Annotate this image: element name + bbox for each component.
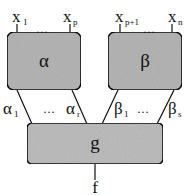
edge-dots-alpha: … <box>43 102 55 116</box>
beta-input-label-last: x <box>168 7 177 26</box>
edge-label-beta-1: β <box>114 99 123 118</box>
beta-input-dots: … <box>143 22 155 36</box>
alpha-input-sub-first: 1 <box>23 17 28 27</box>
g-box-label: g <box>90 132 100 153</box>
edge-label-alpha-1: α <box>3 99 12 118</box>
edge-sub-alpha-1: 1 <box>14 109 19 119</box>
edge-sub-beta-s: s <box>178 109 182 119</box>
beta-box-label: β <box>140 50 150 71</box>
alpha-input-label-first: x <box>12 7 21 26</box>
edge-dots-beta: … <box>137 102 149 116</box>
alpha-box-label: α <box>39 50 49 71</box>
beta-input-sub-first: p+1 <box>125 17 139 27</box>
edge-sub-alpha-r: r <box>77 109 80 119</box>
edge-label-alpha-r: α <box>66 99 75 118</box>
output-label: f <box>92 178 98 195</box>
edge-sub-beta-1: 1 <box>124 109 129 119</box>
edge-label-beta-s: β <box>168 99 177 118</box>
alpha-input-sub-last: p <box>73 17 78 27</box>
edge-alpha-1 <box>17 90 32 124</box>
alpha-input-label-last: x <box>63 7 72 26</box>
composition-diagram: x 1 … x p x p+1 … x n α β g α 1 … α r β … <box>0 0 187 195</box>
alpha-input-dots: … <box>36 22 48 36</box>
beta-input-label-first: x <box>115 7 124 26</box>
beta-input-sub-last: n <box>178 17 183 27</box>
